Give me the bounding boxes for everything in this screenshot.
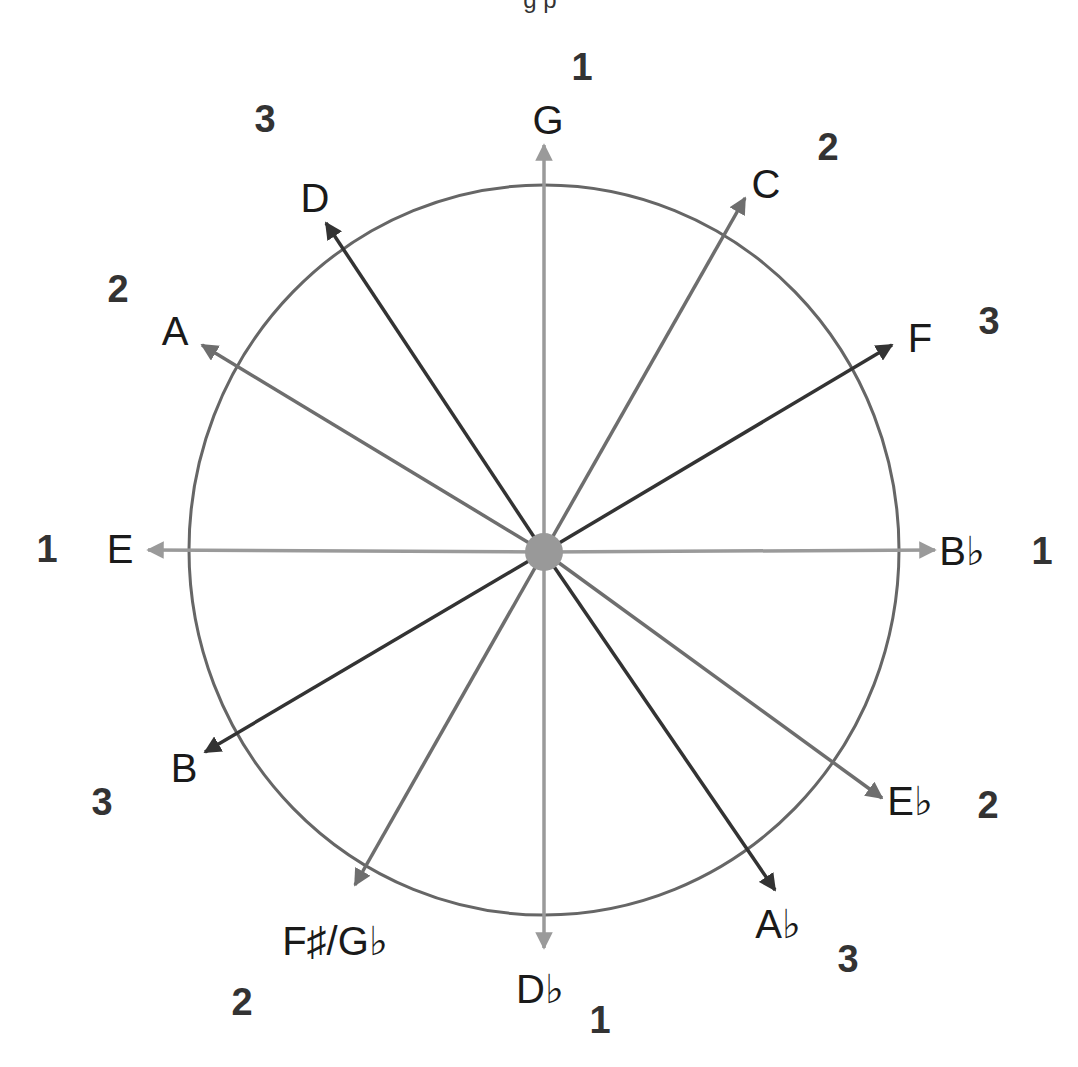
arrow-f [544, 345, 892, 552]
group-number-d-flat: 1 [589, 999, 610, 1041]
arrow-d [326, 223, 544, 552]
arrow-b-flat [544, 550, 935, 552]
arrow-c [544, 198, 745, 552]
group-number-d: 3 [254, 98, 275, 140]
note-label-d: D [301, 176, 330, 220]
group-number-a: 2 [107, 268, 128, 310]
note-label-f-sharp-g-flat: F♯/G♭ [282, 919, 388, 963]
arrow-a [202, 345, 544, 552]
group-number-f: 3 [978, 300, 999, 342]
center-dot [525, 533, 563, 571]
note-label-b: B [171, 746, 198, 790]
note-label-d-flat: D♭ [516, 967, 564, 1011]
arrow-b [205, 552, 544, 752]
group-number-e-flat: 2 [977, 784, 998, 826]
note-label-c: C [752, 162, 781, 206]
group-number-e: 1 [36, 528, 57, 570]
group-number-g: 1 [571, 46, 592, 88]
note-label-a-flat: A♭ [755, 902, 801, 946]
note-label-b-flat: B♭ [939, 529, 985, 573]
arrow-e [148, 550, 544, 552]
arrow-e-flat [544, 552, 882, 798]
arrow-a-flat [544, 552, 775, 890]
circle-of-fourths-diagram: GCFB♭E♭A♭D♭F♯/G♭BEAD 123123123123 [0, 0, 1078, 1067]
group-number-c: 2 [817, 126, 838, 168]
note-label-e: E [107, 527, 134, 571]
group-number-f-sharp-g-flat: 2 [231, 981, 252, 1023]
note-label-g: G [532, 98, 563, 142]
group-number-a-flat: 3 [837, 938, 858, 980]
note-label-f: F [908, 316, 932, 360]
group-number-b: 3 [91, 781, 112, 823]
note-label-a: A [162, 309, 189, 353]
group-number-b-flat: 1 [1031, 530, 1052, 572]
arrow-f-sharp-g-flat [355, 552, 544, 885]
note-label-e-flat: E♭ [887, 779, 933, 823]
